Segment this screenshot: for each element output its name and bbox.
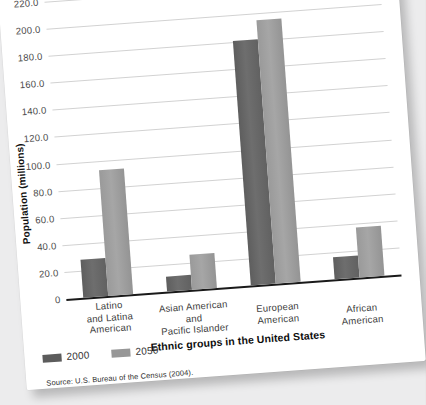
x-category-label: EuropeanAmerican — [234, 285, 321, 335]
plot-area: 220.0200.0180.0160.0140.0120.0100.080.06… — [44, 0, 401, 299]
figure-card-inner: 220.0200.0180.0160.0140.0120.0100.080.06… — [0, 0, 426, 390]
bar-2000-3 — [333, 256, 360, 279]
y-tick-label: 80.0 — [33, 185, 59, 198]
x-category-label: AfricanAmerican — [318, 278, 405, 328]
y-tick-label: 200.0 — [15, 23, 47, 36]
y-tick-label: 100.0 — [25, 158, 57, 171]
bar-2000-1 — [166, 275, 192, 292]
figure-card: 220.0200.0180.0160.0140.0120.0100.080.06… — [0, 0, 426, 390]
bar-2000-0 — [81, 258, 109, 298]
legend-swatch-icon — [42, 353, 62, 362]
y-tick-label: 40.0 — [37, 239, 63, 252]
y-tick-label: 220.0 — [13, 0, 45, 10]
y-tick-label: 20.0 — [39, 266, 65, 279]
bar-groups — [44, 0, 401, 299]
y-tick-label: 0 — [54, 294, 66, 306]
y-tick-label: 60.0 — [35, 212, 61, 225]
y-tick-label: 180.0 — [17, 50, 49, 63]
source-note: Source: U.S. Bureau of the Census (2004)… — [46, 368, 193, 388]
legend-label: 2000 — [66, 349, 90, 362]
legend-label: 2050 — [135, 344, 159, 357]
y-tick-label: 140.0 — [21, 104, 53, 117]
legend-item-2000: 2000 — [42, 349, 90, 363]
x-category-label: Latinoand LatinaAmerican — [67, 297, 154, 347]
x-category-label: Asian AmericanandPacific Islander — [150, 291, 237, 341]
legend-item-2050: 2050 — [111, 344, 159, 358]
y-tick-label: 120.0 — [23, 131, 55, 144]
bar-2050-3 — [356, 226, 385, 278]
y-tick-label: 160.0 — [19, 77, 51, 90]
y-axis-title: Population (millions) — [14, 143, 32, 245]
legend-swatch-icon — [111, 348, 131, 357]
bar-2050-1 — [189, 253, 217, 290]
